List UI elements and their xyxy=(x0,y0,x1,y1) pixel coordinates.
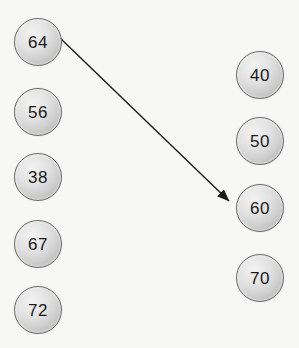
node-label: 67 xyxy=(28,236,48,253)
node-64[interactable]: 64 xyxy=(14,18,62,66)
node-label: 50 xyxy=(250,133,270,150)
node-label: 60 xyxy=(250,200,270,217)
node-label: 72 xyxy=(28,302,48,319)
node-38[interactable]: 38 xyxy=(14,153,62,201)
node-graph-canvas: 64 56 38 67 72 40 50 60 70 xyxy=(0,0,299,348)
node-label: 64 xyxy=(28,34,48,51)
node-70[interactable]: 70 xyxy=(236,254,284,302)
node-label: 38 xyxy=(28,169,48,186)
node-label: 70 xyxy=(250,270,270,287)
node-50[interactable]: 50 xyxy=(236,117,284,165)
node-72[interactable]: 72 xyxy=(14,286,62,334)
node-40[interactable]: 40 xyxy=(236,51,284,99)
node-label: 56 xyxy=(28,104,48,121)
node-60[interactable]: 60 xyxy=(236,184,284,232)
node-label: 40 xyxy=(250,67,270,84)
node-56[interactable]: 56 xyxy=(14,88,62,136)
node-67[interactable]: 67 xyxy=(14,220,62,268)
edge-64-to-60 xyxy=(60,38,229,201)
